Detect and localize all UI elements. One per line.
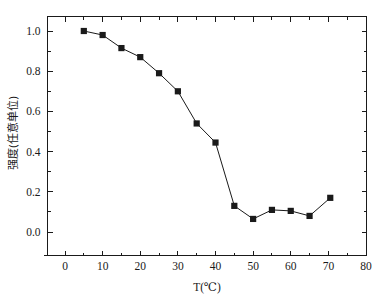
x-axis-title: T(℃) bbox=[193, 281, 221, 294]
data-point-marker bbox=[100, 32, 106, 38]
chart-figure: 01020304050607080 0.00.20.40.60.81.0 T(℃… bbox=[0, 0, 383, 303]
data-point-marker bbox=[212, 139, 218, 145]
data-point-marker bbox=[175, 88, 181, 94]
y-tick-label: 0.8 bbox=[26, 65, 41, 77]
x-tick-label: 30 bbox=[172, 260, 184, 272]
data-point-marker bbox=[137, 54, 143, 60]
y-axis-ticks bbox=[44, 31, 367, 256]
x-tick-label: 50 bbox=[247, 260, 259, 272]
x-tick-label: 20 bbox=[135, 260, 147, 272]
series-line bbox=[84, 31, 330, 219]
y-axis-tick-labels: 0.00.20.40.60.81.0 bbox=[26, 25, 41, 238]
x-tick-label: 0 bbox=[62, 260, 68, 272]
data-point-marker bbox=[306, 213, 312, 219]
x-tick-label: 60 bbox=[285, 260, 297, 272]
x-tick-label: 80 bbox=[360, 260, 372, 272]
data-series bbox=[81, 28, 334, 222]
data-point-marker bbox=[118, 45, 124, 51]
y-axis-title: 强度(任意单位) bbox=[6, 96, 20, 171]
line-chart: 01020304050607080 0.00.20.40.60.81.0 T(℃… bbox=[0, 0, 383, 303]
y-tick-label: 1.0 bbox=[26, 25, 41, 37]
y-tick-label: 0.4 bbox=[26, 146, 41, 158]
data-point-marker bbox=[288, 208, 294, 214]
y-tick-label: 0.6 bbox=[26, 105, 41, 117]
data-point-marker bbox=[156, 70, 162, 76]
x-tick-label: 40 bbox=[210, 260, 222, 272]
data-point-marker bbox=[250, 216, 256, 222]
x-tick-label: 10 bbox=[97, 260, 109, 272]
x-tick-label: 70 bbox=[323, 260, 335, 272]
data-point-marker bbox=[81, 28, 87, 34]
plot-border bbox=[48, 17, 367, 256]
data-point-marker bbox=[327, 195, 333, 201]
y-tick-label: 0.0 bbox=[26, 226, 41, 238]
y-tick-label: 0.2 bbox=[26, 186, 41, 198]
x-axis-tick-labels: 01020304050607080 bbox=[62, 260, 372, 272]
data-point-marker bbox=[231, 203, 237, 209]
data-point-marker bbox=[194, 120, 200, 126]
x-axis-ticks bbox=[65, 17, 366, 256]
data-point-marker bbox=[269, 207, 275, 213]
plot-frame bbox=[48, 17, 367, 256]
